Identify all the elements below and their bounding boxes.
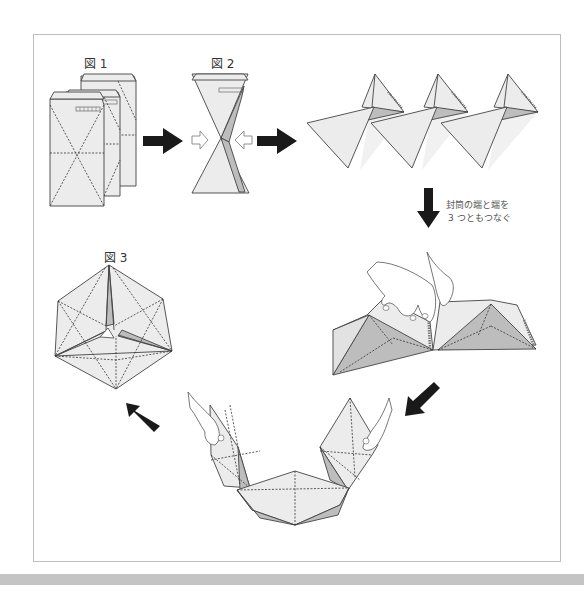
instruction-line-2: 3 つともつなぐ: [448, 213, 511, 223]
envelope-front: [50, 92, 104, 206]
pyramid-chain: [307, 74, 538, 170]
u-shape-step: [188, 392, 392, 525]
joining-step: [333, 252, 536, 375]
origami-diagram: 図 1: [0, 0, 584, 596]
arrow-right-1: [143, 128, 183, 154]
instruction-line-1: 封筒の端と端を: [446, 199, 509, 210]
press-arrow-right: [192, 131, 208, 149]
figure-2: 図 2: [192, 57, 249, 193]
figure-2-label: 図 2: [211, 57, 234, 71]
figure-1: 図 1: [50, 57, 136, 206]
figure-3: 図 3: [55, 251, 172, 389]
figure-3-label: 図 3: [104, 251, 127, 265]
arrow-down-left: [405, 382, 440, 416]
press-arrow-left: [235, 131, 252, 149]
arrow-up-left: [126, 403, 160, 432]
arrow-right-2: [257, 128, 297, 154]
arrow-down: [417, 188, 440, 228]
figure-1-label: 図 1: [84, 57, 107, 71]
